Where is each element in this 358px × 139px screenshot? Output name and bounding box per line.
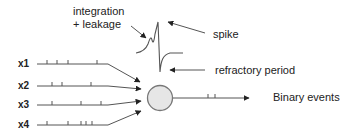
input-label-x4: x4	[18, 119, 29, 130]
spike-arrow	[168, 22, 205, 33]
integration-label: integration + leakage	[73, 5, 124, 30]
binary-events-label: Binary events	[273, 91, 340, 104]
neuron-diagram	[0, 0, 358, 139]
spike-label: spike	[213, 28, 239, 41]
output-spike-ticks	[208, 94, 215, 98]
input-x3	[37, 101, 141, 105]
input-label-x3: x3	[18, 99, 29, 110]
input-x1	[37, 64, 140, 82]
input-label-x2: x2	[18, 80, 29, 91]
input-x4	[37, 111, 141, 125]
spike-waveform	[136, 22, 183, 72]
input-spike-ticks	[47, 60, 101, 125]
input-label-x1: x1	[18, 58, 29, 69]
neuron-soma	[148, 86, 173, 111]
integration-arrow	[131, 26, 146, 38]
input-x2	[37, 86, 141, 89]
refractory-label: refractory period	[215, 64, 295, 77]
